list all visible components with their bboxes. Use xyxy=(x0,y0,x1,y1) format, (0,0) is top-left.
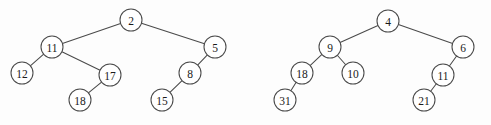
tree-node-label: 12 xyxy=(16,68,28,80)
tree-node-label: 17 xyxy=(104,70,116,82)
tree-diagram-canvas: 21151217818154961810113121 xyxy=(0,0,491,125)
tree-edge xyxy=(198,55,208,65)
tree-node[interactable]: 12 xyxy=(11,62,33,84)
tree-node[interactable]: 4 xyxy=(377,10,399,32)
right-tree-edges xyxy=(291,25,457,92)
tree-node-label: 8 xyxy=(187,68,193,80)
tree-node-label: 2 xyxy=(128,15,134,27)
tree-node[interactable]: 9 xyxy=(319,36,341,58)
tree-edge xyxy=(310,54,322,65)
tree-edge xyxy=(88,82,101,93)
tree-node[interactable]: 18 xyxy=(69,89,91,111)
tree-node-label: 4 xyxy=(385,16,391,28)
tree-node[interactable]: 11 xyxy=(432,64,454,86)
tree-node[interactable]: 6 xyxy=(452,36,474,58)
tree-edge xyxy=(337,55,345,65)
tree-node-label: 5 xyxy=(212,42,218,54)
tree-node-label: 18 xyxy=(74,95,86,107)
tree-node[interactable]: 5 xyxy=(204,36,226,58)
edges-layer xyxy=(30,23,456,93)
left-tree-edges xyxy=(30,23,207,93)
tree-node-label: 15 xyxy=(156,95,168,107)
tree-edge xyxy=(62,24,120,44)
tree-node-label: 21 xyxy=(418,95,430,107)
tree-node[interactable]: 21 xyxy=(413,89,435,111)
tree-node-label: 11 xyxy=(46,42,57,54)
tree-node-label: 9 xyxy=(327,42,333,54)
tree-node[interactable]: 8 xyxy=(179,62,201,84)
tree-edge xyxy=(30,54,43,66)
tree-node-label: 11 xyxy=(437,70,448,82)
tree-edge xyxy=(340,26,378,43)
nodes-layer: 21151217818154961810113121 xyxy=(11,9,474,111)
tree-node-label: 31 xyxy=(279,95,291,107)
right-tree-nodes: 4961810113121 xyxy=(274,10,474,111)
tree-node-label: 18 xyxy=(296,68,308,80)
tree-edge xyxy=(449,56,456,66)
tree-node[interactable]: 15 xyxy=(151,89,173,111)
tree-edge xyxy=(141,23,204,43)
tree-node-label: 6 xyxy=(460,42,466,54)
tree-node[interactable]: 10 xyxy=(342,62,364,84)
tree-node[interactable]: 17 xyxy=(99,64,121,86)
tree-edge xyxy=(170,81,182,93)
tree-node[interactable]: 31 xyxy=(274,89,296,111)
tree-node-label: 10 xyxy=(347,68,359,80)
tree-node[interactable]: 11 xyxy=(41,36,63,58)
tree-node[interactable]: 18 xyxy=(291,62,313,84)
tree-edge xyxy=(62,52,100,70)
tree-edge xyxy=(291,82,296,90)
tree-edge xyxy=(398,25,452,44)
tree-edge xyxy=(431,84,437,91)
tree-node[interactable]: 2 xyxy=(120,9,142,31)
binary-trees-figure: 21151217818154961810113121 xyxy=(0,0,491,125)
